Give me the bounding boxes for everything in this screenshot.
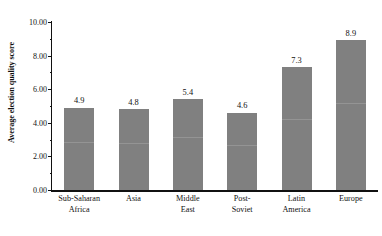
category-label-line: East xyxy=(161,205,215,216)
bar-asia: 4.8 xyxy=(119,22,149,190)
bar-rect xyxy=(282,67,312,190)
bar-rect xyxy=(119,109,149,190)
bar-europe: 8.9 xyxy=(336,22,366,190)
category-label: Europe xyxy=(324,194,378,205)
bar-post-soviet: 4.6 xyxy=(227,22,257,190)
category-label: LatinAmerica xyxy=(269,194,323,215)
category-label-line: America xyxy=(269,205,323,216)
bar-value-label: 4.9 xyxy=(74,96,84,105)
bar-value-label: 4.6 xyxy=(237,101,247,110)
category-label-line: Soviet xyxy=(215,205,269,216)
bar-middle-east: 5.4 xyxy=(173,22,203,190)
category-label-line: Asia xyxy=(106,194,160,205)
x-axis-category-labels: Sub-SaharanAfricaAsiaMiddleEastPost-Sovi… xyxy=(52,194,378,234)
bar-chart-figure: Average election quality score 0.002.004… xyxy=(0,0,382,236)
bar-rect xyxy=(64,108,94,190)
category-label-line: Africa xyxy=(52,205,106,216)
category-label: MiddleEast xyxy=(161,194,215,215)
bar-rect xyxy=(336,40,366,190)
bar-value-label: 7.3 xyxy=(291,56,301,65)
y-tick-label: 8.00 xyxy=(33,51,47,60)
y-tick-label: 0.00 xyxy=(33,186,47,195)
bar-value-label: 8.9 xyxy=(346,29,356,38)
category-label-line: Middle xyxy=(161,194,215,205)
category-label-line: Sub-Saharan xyxy=(52,194,106,205)
y-tick-label: 4.00 xyxy=(33,118,47,127)
y-axis-title: Average election quality score xyxy=(7,9,16,177)
bar-sub-saharan-africa: 4.9 xyxy=(64,22,94,190)
category-label: Asia xyxy=(106,194,160,205)
y-tick-mark xyxy=(48,190,52,191)
y-tick-label: 2.00 xyxy=(33,152,47,161)
bar-series: 4.94.85.44.67.38.9 xyxy=(52,22,378,190)
bar-value-label: 4.8 xyxy=(128,98,138,107)
category-label-line: Latin xyxy=(269,194,323,205)
category-label: Sub-SaharanAfrica xyxy=(52,194,106,215)
bar-value-label: 5.4 xyxy=(183,88,193,97)
category-label: Post-Soviet xyxy=(215,194,269,215)
y-tick-label: 10.00 xyxy=(29,18,47,27)
bar-latin-america: 7.3 xyxy=(282,22,312,190)
bar-rect xyxy=(173,99,203,190)
x-axis-line xyxy=(51,190,378,192)
category-label-line: Europe xyxy=(324,194,378,205)
y-tick-label: 6.00 xyxy=(33,85,47,94)
category-label-line: Post- xyxy=(215,194,269,205)
bar-rect xyxy=(227,113,257,190)
